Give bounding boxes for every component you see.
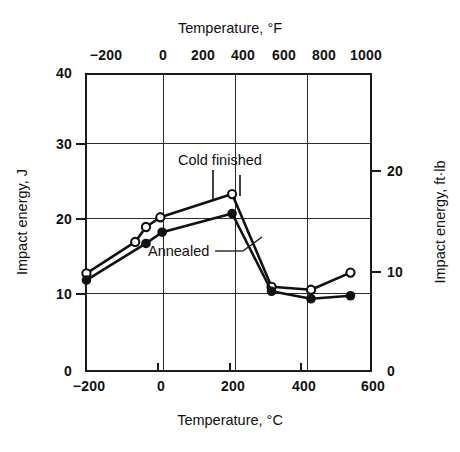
gridline-y-20 xyxy=(87,218,370,219)
gridline-y-30 xyxy=(87,143,370,144)
left-tick-label-0: 0 xyxy=(44,364,72,378)
impact-energy-chart: Temperature, °F −200 0 200 400 600 800 1… xyxy=(0,0,460,452)
gridline-x-200 xyxy=(235,75,236,370)
bottom-tick-400 xyxy=(300,363,302,372)
left-tick-label-20: 20 xyxy=(44,212,72,226)
right-tick-label-10: 10 xyxy=(387,265,403,279)
gridline-x-0 xyxy=(163,75,164,370)
top-tick-label-600: 600 xyxy=(272,48,296,62)
bottom-tick-label-200: 200 xyxy=(221,379,245,393)
bottom-axis-title: Temperature, °C xyxy=(177,412,283,428)
top-tick-label-800: 800 xyxy=(312,48,336,62)
top-axis-title: Temperature, °F xyxy=(178,20,282,36)
right-tick-10 xyxy=(372,271,381,273)
right-tick-20 xyxy=(372,170,381,172)
bottom-tick-0 xyxy=(157,363,159,372)
left-tick-label-30: 30 xyxy=(44,137,72,151)
annotation-cold-finished: Cold finished xyxy=(178,152,262,168)
right-axis-title: Impact energy, ft·lb xyxy=(432,160,448,283)
left-tick-10 xyxy=(76,293,85,295)
left-tick-label-40: 40 xyxy=(44,66,72,80)
top-tick-label-minus200: −200 xyxy=(90,48,122,62)
left-axis-title: Impact energy, J xyxy=(14,169,30,275)
annotation-annealed: Annealed xyxy=(148,243,209,259)
top-tick-label-400: 400 xyxy=(231,48,255,62)
bottom-tick-label-400: 400 xyxy=(292,379,316,393)
top-tick-label-1000: 1000 xyxy=(350,48,382,62)
left-tick-30 xyxy=(76,143,85,145)
left-tick-20 xyxy=(76,218,85,220)
top-tick-label-0: 0 xyxy=(159,48,167,62)
gridline-y-10 xyxy=(87,293,370,294)
left-tick-label-10: 10 xyxy=(44,287,72,301)
bottom-tick-200 xyxy=(229,363,231,372)
bottom-tick-label-600: 600 xyxy=(361,379,385,393)
plot-area xyxy=(85,73,372,372)
top-tick-label-200: 200 xyxy=(191,48,215,62)
bottom-tick-label-minus200: −200 xyxy=(73,379,105,393)
right-tick-label-0: 0 xyxy=(387,364,395,378)
gridline-x-400 xyxy=(307,75,308,370)
right-tick-label-20: 20 xyxy=(387,164,403,178)
bottom-tick-label-0: 0 xyxy=(157,379,165,393)
